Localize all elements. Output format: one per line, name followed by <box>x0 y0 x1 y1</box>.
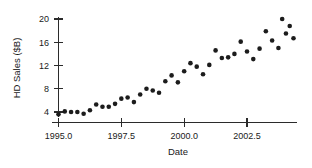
data-point <box>201 72 206 77</box>
data-point <box>88 108 93 113</box>
data-point <box>169 73 174 78</box>
x-tick-label: 2002.5 <box>233 131 261 141</box>
data-point <box>56 112 61 117</box>
data-point <box>100 104 105 109</box>
data-point <box>81 111 86 116</box>
data-point <box>188 61 193 66</box>
data-point <box>280 17 285 22</box>
y-tick-label: 16 <box>39 38 49 48</box>
x-axis: 1995.01997.52000.02002.5 <box>45 118 297 141</box>
data-point <box>213 48 218 53</box>
y-axis: 48121620 <box>39 14 63 117</box>
data-point <box>207 63 212 68</box>
data-point <box>264 29 269 34</box>
data-point <box>276 46 281 51</box>
data-point <box>270 38 275 43</box>
x-tick-group: 1995.01997.52000.02002.5 <box>45 118 261 141</box>
scatter-chart-figure: 48121620 1995.01997.52000.02002.5 HD Sal… <box>0 0 312 168</box>
data-point <box>69 110 74 115</box>
x-tick-label: 2000.0 <box>170 131 198 141</box>
data-point <box>232 52 237 57</box>
x-tick-label: 1997.5 <box>108 131 136 141</box>
data-point <box>291 36 296 41</box>
data-point <box>245 49 250 54</box>
y-tick-label: 4 <box>44 107 49 117</box>
data-point <box>194 64 199 69</box>
y-axis-title: HD Sales ($B) <box>11 38 22 99</box>
data-point <box>284 31 289 36</box>
data-point <box>125 95 130 100</box>
data-point <box>119 96 124 101</box>
x-axis-title: Date <box>168 146 188 157</box>
data-point <box>182 69 187 74</box>
data-point <box>62 109 67 114</box>
data-point <box>106 104 111 109</box>
data-point <box>287 24 292 29</box>
data-point <box>257 46 262 51</box>
data-point <box>176 80 181 85</box>
y-tick-label: 20 <box>39 14 49 24</box>
data-point <box>157 91 162 96</box>
data-point <box>238 39 243 44</box>
data-point <box>251 57 256 62</box>
data-point <box>144 86 149 91</box>
data-point <box>113 102 118 107</box>
data-point <box>163 79 168 84</box>
data-point <box>226 55 231 60</box>
data-point-group <box>56 17 296 117</box>
y-tick-label: 8 <box>44 84 49 94</box>
y-tick-label: 12 <box>39 61 49 71</box>
y-tick-group: 48121620 <box>39 14 63 117</box>
data-point <box>132 100 137 105</box>
data-point <box>150 88 155 93</box>
plot-canvas: 48121620 1995.01997.52000.02002.5 HD Sal… <box>0 0 312 168</box>
data-point <box>94 102 99 107</box>
data-point <box>220 56 225 61</box>
data-point <box>75 110 80 115</box>
data-point <box>138 92 143 97</box>
x-tick-label: 1995.0 <box>45 131 73 141</box>
